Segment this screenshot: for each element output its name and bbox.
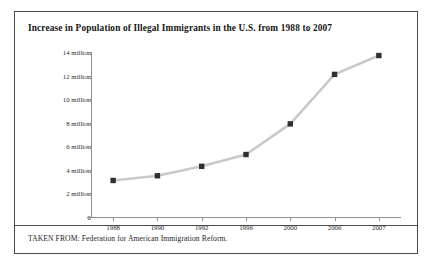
source-caption: TAKEN FROM: Federation for American Immi…	[28, 234, 228, 243]
figure-frame: Increase in Population of Illegal Immigr…	[14, 11, 418, 254]
data-point-marker	[376, 53, 381, 58]
footer-divider	[15, 225, 417, 226]
page-title: Increase in Population of Illegal Immigr…	[28, 22, 398, 34]
data-series-line	[28, 44, 406, 224]
chart-plot-area: 02 million4 million6 million8 million10 …	[28, 44, 406, 224]
data-point-marker	[288, 121, 293, 126]
data-point-marker	[243, 152, 248, 157]
series-line	[113, 56, 379, 181]
data-point-marker	[110, 178, 115, 183]
data-point-marker	[155, 173, 160, 178]
data-point-marker	[332, 72, 337, 77]
data-point-marker	[199, 164, 204, 169]
